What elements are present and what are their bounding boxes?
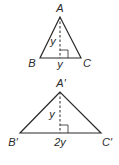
vertex-label-a: A [55,2,63,14]
right-angle-marker-1 [60,50,68,58]
triangle-abc-prime: A′ B′ C′ y 2y [8,77,113,148]
vertex-label-c: C [83,57,91,69]
base-label-2: 2y [53,136,67,148]
height-label-2: y [48,108,56,120]
vertex-label-b-prime: B′ [8,136,18,148]
vertex-label-b: B [28,57,35,69]
diagram-canvas: A B C y y A′ B′ C′ y 2y [0,0,119,165]
height-label-1: y [49,35,57,47]
right-angle-marker-2 [60,125,68,133]
triangle-abc: A B C y y [28,2,91,70]
vertex-label-c-prime: C′ [102,136,113,148]
vertex-label-a-prime: A′ [55,77,66,89]
base-label-1: y [56,58,64,70]
